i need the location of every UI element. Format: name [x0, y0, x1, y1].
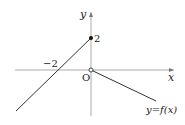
- tick-label-y-2: 2: [94, 33, 100, 44]
- left-line-piece: [16, 38, 91, 111]
- right-line-piece: [91, 70, 156, 101]
- function-graph: y x O 2 −2 y=f(x): [0, 0, 185, 125]
- closed-point-0-2: [89, 36, 93, 40]
- x-axis-label: x: [168, 71, 175, 84]
- tick-label-x-neg2: −2: [43, 58, 58, 69]
- y-axis-label: y: [79, 8, 87, 21]
- curve-label: y=f(x): [145, 104, 177, 115]
- origin-label: O: [82, 72, 90, 83]
